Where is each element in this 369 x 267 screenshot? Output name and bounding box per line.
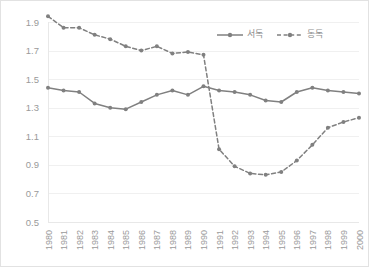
y-axis-tick-label: 0.7 [26,188,39,199]
x-axis-tick-label: 1995 [277,230,287,250]
data-point [202,53,206,57]
x-axis-tick-label: 1987 [152,230,162,250]
data-point [248,171,252,175]
series-line-2 [48,16,359,175]
x-axis-tick-labels: 1980198119821983198419851986198719881989… [44,230,365,250]
x-axis-tick-label: 1985 [121,230,131,250]
data-point [357,91,361,95]
series-1 [46,84,361,111]
y-axis-tick-label: 1.1 [26,131,39,142]
x-axis-tick-label: 1996 [292,230,302,250]
legend: 서독동독 [217,29,323,39]
data-point [124,107,128,111]
data-point [155,93,159,97]
x-axis-tick-label: 1989 [183,230,193,250]
data-point [264,99,268,103]
x-axis-tick-label: 1992 [230,230,240,250]
data-point [326,126,330,130]
data-point [264,173,268,177]
data-point [326,89,330,93]
y-gridlines: 1.91.71.51.31.10.90.70.5 [26,17,359,228]
x-axis-tick-label: 1984 [106,230,116,250]
data-point [295,90,299,94]
y-axis-tick-label: 1.3 [26,102,39,113]
legend-item-west[interactable]: 서독 [217,29,263,39]
line-chart: 1.91.71.51.31.10.90.70.51980198119821983… [1,1,369,267]
data-point [108,106,112,110]
data-point [155,44,159,48]
data-point [139,100,143,104]
data-point [202,84,206,88]
y-axis-tick-label: 0.5 [26,217,39,228]
legend-label: 동독 [307,29,323,39]
y-axis-tick-label: 0.9 [26,159,39,170]
data-point [62,26,66,30]
data-point [279,170,283,174]
data-point [46,14,50,18]
x-axis-tick-label: 1983 [90,230,100,250]
data-point [93,101,97,105]
x-axis-tick-label: 1999 [339,230,349,250]
x-axis-tick-label: 1997 [308,230,318,250]
data-point [217,89,221,93]
x-axis-tick-label: 1988 [168,230,178,250]
x-axis-tick-label: 1990 [199,230,209,250]
data-point [139,49,143,53]
data-point [93,33,97,37]
data-point [124,44,128,48]
x-axis-tick-label: 1994 [261,230,271,250]
data-point [186,50,190,54]
data-point [170,51,174,55]
data-point [62,89,66,93]
data-point [233,90,237,94]
data-point [77,26,81,30]
data-point [46,86,50,90]
x-axis-tick-label: 1986 [137,230,147,250]
axes [48,22,359,223]
data-point [357,116,361,120]
data-point [341,120,345,124]
data-point [310,86,314,90]
data-point [341,90,345,94]
x-axis-tick-label: 1980 [44,230,54,250]
data-point [186,93,190,97]
y-axis-tick-label: 1.9 [26,17,39,28]
legend-label: 서독 [247,29,263,39]
chart-container: 1.91.71.51.31.10.90.70.51980198119821983… [0,0,369,267]
legend-item-east[interactable]: 동독 [277,29,323,39]
x-axis-tick-label: 1982 [75,230,85,250]
data-point [217,147,221,151]
data-point [279,100,283,104]
y-axis-tick-label: 1.5 [26,74,39,85]
data-point [248,93,252,97]
y-axis-tick-label: 1.7 [26,45,39,56]
data-point [233,164,237,168]
data-point [170,89,174,93]
data-point [310,143,314,147]
data-point [77,90,81,94]
x-axis-tick-label: 2000 [355,230,365,250]
x-axis-tick-label: 1991 [215,230,225,250]
legend-marker [288,33,292,37]
data-point [108,37,112,41]
data-point [295,159,299,163]
legend-marker [228,33,232,37]
x-axis-tick-label: 1993 [246,230,256,250]
series-line-1 [48,86,359,109]
x-axis-tick-label: 1998 [323,230,333,250]
x-axis-tick-label: 1981 [59,230,69,250]
